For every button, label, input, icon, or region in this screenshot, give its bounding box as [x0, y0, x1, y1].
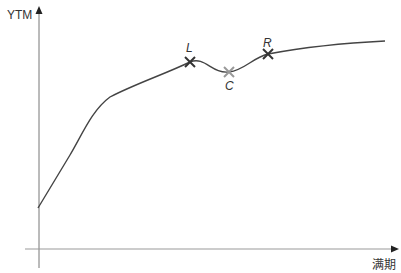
point-l-marker-icon — [185, 57, 195, 67]
x-axis — [25, 246, 399, 253]
x-axis-label: 满期 — [372, 255, 396, 272]
point-r-label: R — [263, 36, 272, 50]
y-axis-label: YTM — [7, 8, 32, 22]
y-axis — [36, 6, 43, 268]
point-c-label: C — [225, 79, 234, 93]
y-axis-arrow-icon — [36, 6, 43, 14]
yield-curve-diagram — [0, 0, 401, 273]
x-axis-arrow-icon — [391, 246, 399, 253]
point-l-label: L — [186, 41, 193, 55]
yield-curve-line — [38, 41, 385, 208]
